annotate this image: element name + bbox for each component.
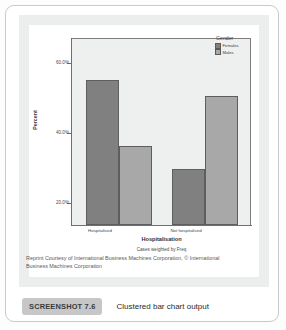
- copyright-line-1: Reprint Courtesy of International Busine…: [26, 254, 266, 262]
- figure-card: 60.0% 40.0% 20.0% Percent Hospitalised N…: [5, 5, 279, 322]
- legend-label-males: Males: [223, 50, 234, 55]
- y-tick-label-20: 20.0%: [29, 200, 69, 205]
- copyright-line-2: Business Machines Corporation: [26, 262, 266, 270]
- y-tick-label-20-text: 20.0%: [56, 200, 69, 205]
- x-tick-label-not-hospitalised: Not hospitalised: [154, 228, 218, 233]
- legend-item-females: Females: [215, 43, 259, 49]
- legend-swatch-icon-males: [215, 49, 221, 55]
- plot-area: [71, 38, 251, 226]
- bar-females-hospitalised: [86, 80, 119, 225]
- spss-output-sheet: 60.0% 40.0% 20.0% Percent Hospitalised N…: [29, 25, 259, 277]
- legend-label-females: Females: [223, 43, 239, 48]
- chart-legend: Gender Females Males: [215, 35, 259, 56]
- screenshot-page: 60.0% 40.0% 20.0% Percent Hospitalised N…: [0, 0, 286, 330]
- caption-text: Clustered bar chart output: [116, 302, 209, 311]
- legend-title: Gender: [215, 35, 259, 41]
- legend-swatch-icon-females: [215, 43, 221, 49]
- x-axis-line: [71, 225, 252, 226]
- y-axis-line: [71, 38, 72, 226]
- clustered-bar-chart: 60.0% 40.0% 20.0% Percent Hospitalised N…: [29, 25, 259, 277]
- bar-females-not-hospitalised: [172, 169, 205, 225]
- y-tick-label-40-text: 40.0%: [56, 130, 69, 135]
- y-axis-title: Percent: [32, 80, 38, 160]
- bar-males-hospitalised: [119, 146, 152, 225]
- y-tick-label-60: 60.0%: [29, 60, 69, 65]
- y-tick-label-60-text: 60.0%: [56, 60, 69, 65]
- spss-output-frame: 60.0% 40.0% 20.0% Percent Hospitalised N…: [19, 15, 269, 287]
- plot-inner: [72, 39, 250, 225]
- figure-caption: SCREENSHOT 7.6 Clustered bar chart outpu…: [22, 297, 266, 316]
- x-axis-title: Hospitalisation: [71, 236, 252, 242]
- legend-item-males: Males: [215, 49, 259, 55]
- screenshot-badge: SCREENSHOT 7.6: [22, 298, 102, 315]
- chart-footnote: Cases weighted by Freq: [71, 247, 252, 252]
- bar-males-not-hospitalised: [205, 96, 238, 225]
- copyright-notice: Reprint Courtesy of International Busine…: [26, 254, 266, 271]
- x-tick-label-hospitalised: Hospitalised: [68, 228, 132, 233]
